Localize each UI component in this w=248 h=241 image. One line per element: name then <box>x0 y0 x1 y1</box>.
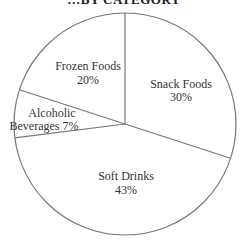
svg-text:Soft Drinks: Soft Drinks <box>98 169 154 183</box>
svg-text:Snack Foods: Snack Foods <box>150 77 212 91</box>
svg-text:Alcoholic: Alcoholic <box>28 106 75 120</box>
svg-text:Frozen Foods: Frozen Foods <box>55 59 121 73</box>
svg-text:Beverages 7%: Beverages 7% <box>10 119 79 133</box>
svg-text:30%: 30% <box>170 90 192 104</box>
pie-chart: Snack Foods 30% Soft Drinks 43% Alcoholi… <box>0 0 248 241</box>
svg-text:20%: 20% <box>77 73 99 87</box>
svg-text:43%: 43% <box>115 183 137 197</box>
